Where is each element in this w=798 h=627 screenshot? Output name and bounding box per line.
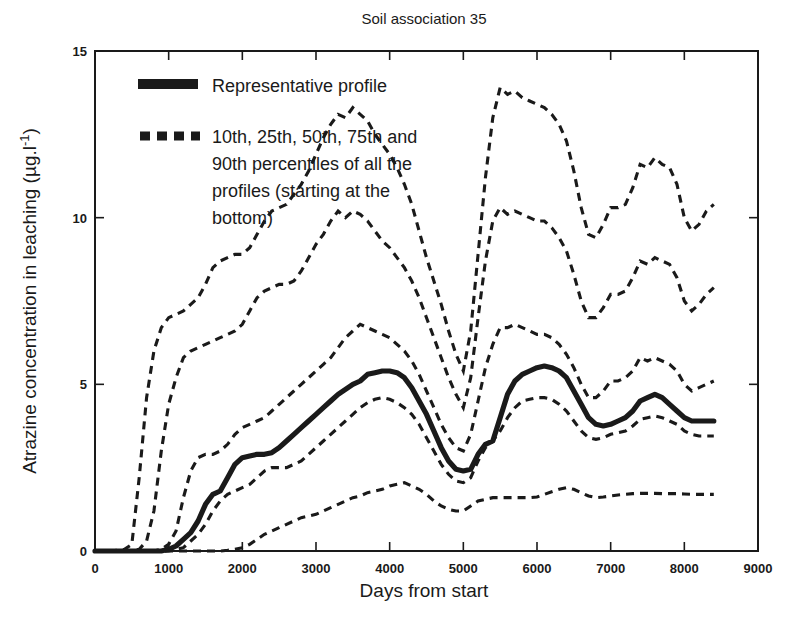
x-axis-title: Days from start	[360, 580, 490, 601]
y-axis-title-text: Atrazine concentration in leaching (µg.l…	[17, 128, 40, 474]
x-tick-label: 1000	[154, 561, 183, 576]
y-tick-label: 10	[73, 211, 87, 226]
y-axis-title: Atrazine concentration in leaching (µg.l…	[17, 128, 40, 474]
x-tick-label: 6000	[523, 561, 552, 576]
y-axis-title-close: )	[19, 128, 40, 134]
chart-figure: Soil association 35 01000200030004000500…	[0, 0, 798, 627]
y-tick-label: 0	[80, 544, 87, 559]
y-tick-label: 5	[80, 377, 87, 392]
x-tick-label: 9000	[744, 561, 773, 576]
x-tick-label: 7000	[596, 561, 625, 576]
x-tick-label: 4000	[375, 561, 404, 576]
x-tick-label: 2000	[228, 561, 257, 576]
legend-percentiles-line-3: profiles (starting at the	[212, 181, 390, 201]
legend-solid-line-swatch	[138, 79, 198, 89]
y-axis-title-superscript: -1	[17, 134, 32, 146]
legend-percentiles-line-4: bottom)	[212, 208, 273, 228]
legend-label-representative: Representative profile	[212, 76, 387, 96]
chart-background	[0, 0, 798, 627]
legend-percentiles-line-2: 90th percentiles of all the	[212, 154, 412, 174]
x-tick-label: 8000	[670, 561, 699, 576]
y-tick-label: 15	[73, 44, 87, 59]
x-tick-label: 5000	[449, 561, 478, 576]
legend-percentiles-line-1: 10th, 25th, 50th, 75th and	[212, 127, 417, 147]
soil-association-chart: Soil association 35 01000200030004000500…	[0, 0, 798, 627]
x-tick-label: 0	[91, 561, 98, 576]
x-tick-label: 3000	[302, 561, 331, 576]
y-axis-title-main: Atrazine concentration in leaching (µg.l	[19, 146, 40, 474]
chart-title: Soil association 35	[361, 10, 486, 27]
